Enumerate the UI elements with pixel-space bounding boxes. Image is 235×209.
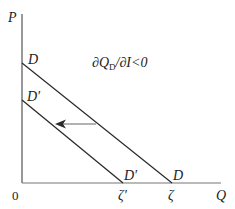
annotation-suffix: /∂I<0 xyxy=(115,55,148,70)
x-axis-label: Q xyxy=(216,188,226,203)
demand-shift-diagram: P Q 0 D D′ D′ D ζ′ ζ ∂QD/∂I<0 xyxy=(0,0,235,209)
demand-curve-D xyxy=(22,63,172,183)
curve-D-prime-top-label: D′ xyxy=(26,89,41,104)
x-intercept-D-label: ζ xyxy=(168,188,175,203)
origin-label: 0 xyxy=(12,188,19,203)
demand-curve-D-prime xyxy=(22,100,123,183)
income-derivative-annotation: ∂QD/∂I<0 xyxy=(92,55,147,72)
curve-D-prime-bottom-label: D′ xyxy=(123,168,138,183)
left-arrow-icon xyxy=(55,120,96,129)
y-axis-label: P xyxy=(7,10,17,25)
x-intercept-D-prime-label: ζ′ xyxy=(118,188,128,203)
curve-D-bottom-label: D xyxy=(172,168,183,183)
curve-D-top-label: D xyxy=(27,52,38,67)
annotation-prefix: ∂Q xyxy=(92,55,109,70)
